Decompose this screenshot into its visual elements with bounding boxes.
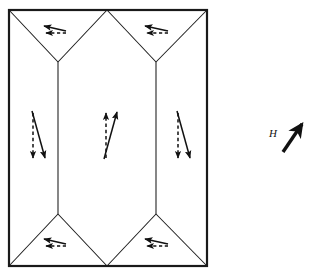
applied-field-label: H — [268, 127, 278, 139]
applied-field-annotation: H — [268, 124, 302, 152]
applied-field-arrow-icon — [283, 124, 302, 152]
figure-canvas: H — [0, 0, 314, 275]
domain-structure-svg: H — [0, 0, 314, 275]
